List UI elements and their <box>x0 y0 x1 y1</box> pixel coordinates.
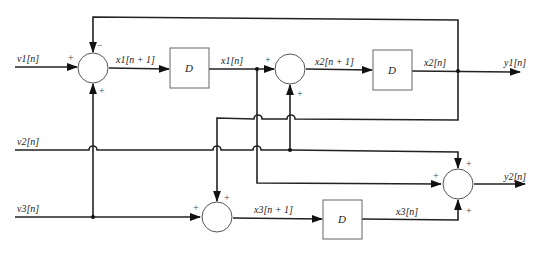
label-v2: v2[n] <box>17 136 39 147</box>
label-x2-next: x2[n + 1] <box>314 56 354 67</box>
adder4-sign-left: + <box>433 170 439 181</box>
y1-wire <box>412 71 520 72</box>
adder-1 <box>78 53 108 83</box>
junction-v2 <box>288 148 292 152</box>
label-x3-next: x3[n + 1] <box>253 204 293 215</box>
label-y1: y1[n] <box>503 57 526 68</box>
adder-4 <box>443 169 473 199</box>
x2-to-adder3-wire <box>217 71 458 201</box>
adder1-sign-top: − <box>97 40 103 51</box>
adder1-sign-left: + <box>68 52 74 63</box>
junction-x1 <box>255 67 259 71</box>
label-x1: x1[n] <box>220 55 243 66</box>
delay-label-1: D <box>184 62 193 74</box>
junction-v3 <box>91 215 95 219</box>
label-x3: x3[n] <box>395 206 418 217</box>
adder4-sign-top: + <box>466 158 472 169</box>
adder2-sign-left: + <box>265 54 271 65</box>
adder-3 <box>202 202 232 232</box>
label-y2: y2[n] <box>503 171 526 182</box>
x1-to-adder4-wire <box>257 69 441 184</box>
label-x2: x2[n] <box>423 57 446 68</box>
delay-label-3: D <box>337 213 346 225</box>
x2-next-wire <box>306 69 372 70</box>
adder3-sign-left: + <box>193 202 199 213</box>
label-x1-next: x1[n + 1] <box>115 54 155 65</box>
v2-wire <box>15 146 458 168</box>
adder4-sign-bottom: + <box>466 205 472 216</box>
adder1-sign-bottom: + <box>99 85 105 96</box>
delay-label-2: D <box>387 64 396 76</box>
label-v1: v1[n] <box>17 53 39 64</box>
x1-next-wire <box>109 68 169 69</box>
junction-x2 <box>456 69 460 73</box>
label-v3: v3[n] <box>17 203 39 214</box>
adder-2 <box>275 54 305 84</box>
adder2-sign-bottom: + <box>297 88 303 99</box>
block-diagram: D D D v1[n] v2[n] v3[n] x1[n + 1] x1[n] … <box>0 0 540 255</box>
adder3-sign-top: + <box>224 192 230 203</box>
x3-next-wire <box>233 218 322 219</box>
